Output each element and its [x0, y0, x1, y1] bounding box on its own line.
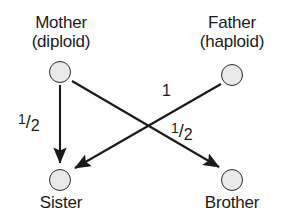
edge-mother-to-brother	[72, 81, 219, 167]
edge-label-mother-to-sister: 1/2	[18, 110, 40, 135]
node-father[interactable]	[221, 64, 243, 86]
node-label-father-line2: (haploid)	[171, 32, 284, 51]
node-brother[interactable]	[221, 169, 243, 191]
fraction-one-half: 1/2	[18, 110, 40, 135]
fraction-denominator: 2	[31, 117, 40, 134]
node-label-father-line1: Father	[171, 13, 284, 32]
fraction-numerator: 1	[18, 111, 26, 127]
probability-value: 1	[162, 82, 171, 99]
node-sister[interactable]	[49, 169, 71, 191]
edge-label-mother-to-brother: 1/2	[171, 119, 193, 144]
fraction-one: 1	[162, 79, 171, 100]
node-label-mother-line1: Mother	[0, 13, 122, 32]
diagram-canvas: Mother (diploid) Father (haploid) Sister…	[0, 0, 284, 219]
node-label-father: Father (haploid)	[171, 13, 284, 51]
node-label-mother: Mother (diploid)	[0, 13, 122, 51]
node-label-brother: Brother	[171, 193, 284, 212]
node-label-brother-line1: Brother	[171, 193, 284, 212]
node-label-sister: Sister	[0, 193, 122, 212]
node-label-mother-line2: (diploid)	[0, 32, 122, 51]
edge-label-father-to-sister: 1	[162, 79, 171, 100]
node-label-sister-line1: Sister	[0, 193, 122, 212]
fraction-one-half: 1/2	[171, 119, 193, 144]
fraction-denominator: 2	[184, 126, 193, 143]
fraction-numerator: 1	[171, 120, 179, 136]
node-mother[interactable]	[49, 61, 71, 83]
